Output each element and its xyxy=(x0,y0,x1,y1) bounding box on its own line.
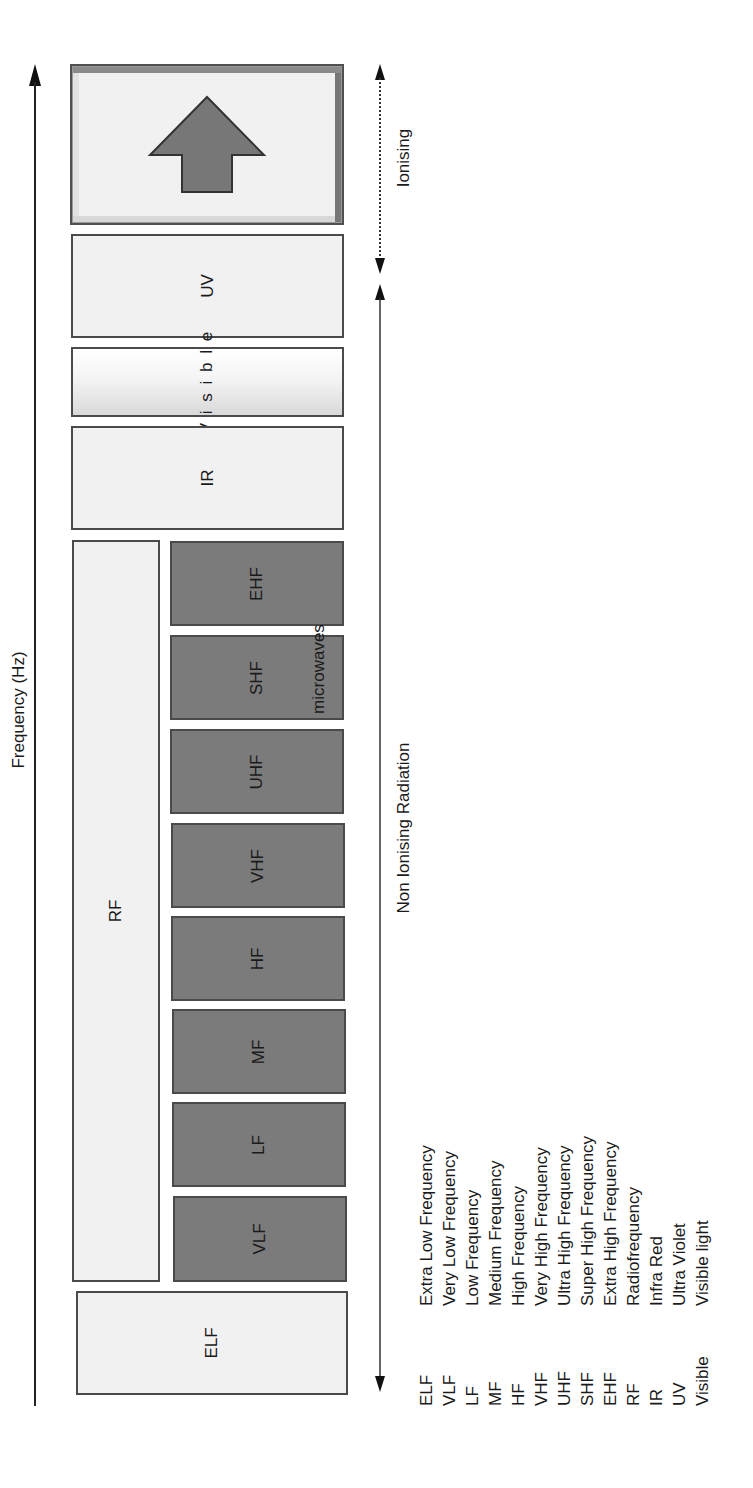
band-uv: UV xyxy=(71,234,344,338)
band-elf: ELF xyxy=(76,1291,348,1395)
legend-item: UHFUltra High Frequency xyxy=(556,1145,573,1406)
up-arrow-icon xyxy=(142,95,272,195)
band-vlf-label: VLF xyxy=(250,1223,270,1254)
axis-arrow-icon xyxy=(28,64,42,1406)
non-ionising-range-arrow-icon xyxy=(372,284,388,1394)
band-visible-label: V i s i b l e xyxy=(197,330,217,434)
band-vhf-label: VHF xyxy=(248,849,268,883)
band-ir: IR xyxy=(71,426,344,530)
band-vhf: VHF xyxy=(171,823,345,908)
band-uv-label: UV xyxy=(198,274,218,298)
microwaves-label: microwaves xyxy=(309,609,329,729)
band-lf: LF xyxy=(172,1102,346,1187)
legend-item: RFRadiofrequency xyxy=(625,1187,642,1406)
ionising-range-arrow-icon xyxy=(372,64,388,276)
band-mf: MF xyxy=(172,1009,346,1094)
band-mf-label: MF xyxy=(249,1039,269,1064)
non-ionising-label: Non Ionising Radiation xyxy=(394,728,414,928)
legend-item: LFLow Frequency xyxy=(464,1190,481,1406)
band-uhf-label: UHF xyxy=(247,754,267,789)
band-shf-label: SHF xyxy=(247,661,267,695)
ionising-band xyxy=(70,64,344,225)
band-visible: V i s i b l e xyxy=(71,347,344,417)
legend-item: IRInfra Red xyxy=(648,1236,665,1406)
legend-item: HFHigh Frequency xyxy=(510,1186,527,1406)
legend-item: SHFSuper High Frequency xyxy=(579,1136,596,1406)
band-rf: RF xyxy=(72,540,160,1282)
band-ir-label: IR xyxy=(198,470,218,487)
band-lf-label: LF xyxy=(249,1135,269,1155)
band-rf-label: RF xyxy=(106,900,126,923)
legend-item: EHFExtra High Frequency xyxy=(602,1142,619,1406)
band-hf: HF xyxy=(171,916,345,1001)
legend: ELFExtra Low Frequency VLFVery Low Frequ… xyxy=(418,1080,748,1410)
legend-item: ELFExtra Low Frequency xyxy=(418,1145,435,1406)
legend-item: VLFVery Low Frequency xyxy=(441,1151,458,1406)
frequency-axis-label: Frequency (Hz) xyxy=(9,640,29,780)
band-vlf: VLF xyxy=(173,1196,347,1282)
legend-item: VHFVery High Frequency xyxy=(533,1147,550,1406)
legend-item: UVUltra Violet xyxy=(671,1223,688,1406)
band-hf-label: HF xyxy=(248,947,268,970)
legend-item: MFMedium Frequency xyxy=(487,1160,504,1406)
ionising-label: Ionising xyxy=(394,113,414,203)
legend-item: VisibleVisible light xyxy=(694,1220,711,1406)
frequency-axis xyxy=(34,64,37,1406)
band-elf-label: ELF xyxy=(202,1327,222,1358)
band-uhf: UHF xyxy=(170,729,344,814)
band-ehf-label: EHF xyxy=(247,567,267,601)
